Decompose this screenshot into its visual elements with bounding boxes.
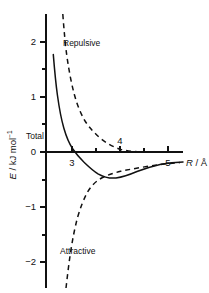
plot-area: 2 1 0 −1 −2 3 4 5 E / kJ mol−1 R / Å (0, 0, 209, 293)
annotation-total: Total (26, 131, 44, 141)
y-axis-tick-labels: 2 1 0 −1 −2 (25, 36, 36, 267)
y-axis-major-ticks (40, 42, 46, 262)
svg-text:R / Å: R / Å (186, 157, 208, 168)
svg-text:E / kJ mol−1: E / kJ mol−1 (6, 130, 18, 180)
series-repulsive-curve (63, 14, 145, 152)
annotation-repulsive: Repulsive (63, 38, 101, 48)
x-axis-label: R / Å (186, 157, 208, 168)
series-attractive-curve (66, 163, 180, 288)
y-axis-label-separator: / (7, 165, 18, 173)
annotations-group: Repulsive Attractive Total (26, 38, 101, 256)
x-tick-label-3: 3 (69, 157, 74, 168)
x-tick-label-4: 4 (117, 135, 122, 146)
y-tick-label-neg2: −2 (25, 256, 36, 267)
y-axis-label-exponent: −1 (6, 130, 13, 138)
y-tick-label-neg1: −1 (25, 201, 36, 212)
lennard-jones-potential-chart: 2 1 0 −1 −2 3 4 5 E / kJ mol−1 R / Å (0, 0, 209, 293)
y-axis-label-unit: kJ mol (7, 138, 18, 165)
y-tick-label-0: 0 (31, 146, 36, 157)
y-tick-label-2: 2 (31, 36, 36, 47)
y-axis-label: E / kJ mol−1 (6, 130, 18, 180)
x-axis-label-unit: Å (201, 157, 208, 168)
annotation-attractive: Attractive (60, 246, 96, 256)
x-axis-label-separator: / (193, 157, 201, 168)
y-tick-label-1: 1 (31, 91, 36, 102)
